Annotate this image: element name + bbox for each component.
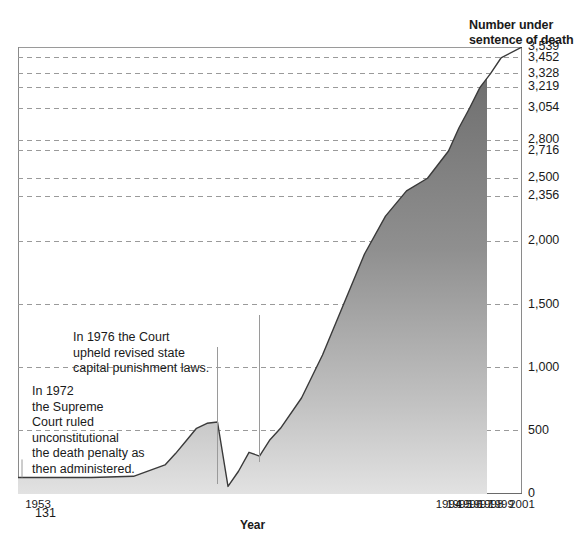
x-tick-label: 2001	[509, 498, 535, 511]
y-tick-label: 2,500	[528, 171, 559, 184]
annotation-1972: In 1972 the Supreme Court ruled unconsti…	[32, 384, 162, 478]
y-tick-label: 1,500	[528, 298, 559, 311]
x-axis-title: Year	[240, 518, 265, 532]
plot-area: In 1976 the Court upheld revised state c…	[18, 47, 522, 494]
y-tick-label: 3,452	[528, 51, 559, 64]
y-tick-label: 500	[528, 424, 549, 437]
y-tick-label: 2,716	[528, 144, 559, 157]
chart-figure: Number under sentence of death	[0, 0, 584, 538]
annotation-1976: In 1976 the Court upheld revised state c…	[73, 330, 233, 377]
y-tick-label: 2,000	[528, 234, 559, 247]
x-tick-label: 1953	[25, 498, 51, 511]
y-axis-title-line-1: Number under	[469, 18, 574, 33]
y-tick-label: 3,328	[528, 67, 559, 80]
y-tick-label: 3,219	[528, 80, 559, 93]
y-tick-label: 2,356	[528, 189, 559, 202]
y-tick-label: 1,000	[528, 361, 559, 374]
y-tick-label: 3,054	[528, 101, 559, 114]
